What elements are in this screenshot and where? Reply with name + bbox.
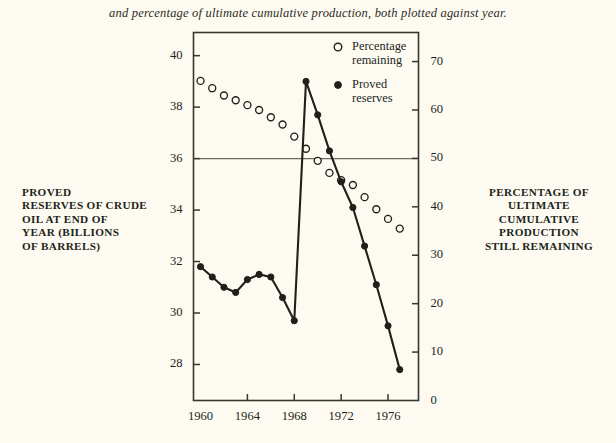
right-axis-title-line-0: PERCENTAGE OF [466, 186, 612, 199]
y-tick-label-32: 32 [136, 254, 183, 269]
datapoint-0-1961 [209, 85, 216, 92]
datapoint-1-1963 [233, 289, 239, 295]
datapoint-0-1974 [361, 194, 368, 201]
datapoint-1-1964 [244, 276, 250, 282]
y2-tick-label-60: 60 [431, 102, 471, 117]
right-axis-title: PERCENTAGE OFULTIMATECUMULATIVEPRODUCTIO… [466, 186, 612, 253]
y-tick-label-28: 28 [136, 356, 183, 371]
datapoint-1-1962 [221, 284, 227, 290]
datapoint-0-1962 [220, 92, 227, 99]
left-axis-title-line-3: YEAR (BILLIONS [22, 226, 172, 239]
datapoint-1-1966 [268, 274, 274, 280]
datapoint-1-1967 [279, 294, 285, 300]
datapoint-0-1968 [291, 133, 298, 140]
legend-marker-proved-reserves [335, 82, 342, 89]
legend-label-proved-reserves: Provedreserves [352, 77, 393, 105]
right-axis-title-line-3: PRODUCTION [466, 226, 612, 239]
y-tick-label-40: 40 [136, 48, 183, 63]
datapoint-1-1960 [197, 264, 203, 270]
y-tick-label-36: 36 [136, 151, 183, 166]
datapoint-1-1973 [350, 204, 356, 210]
datapoint-0-1970 [314, 157, 321, 164]
datapoint-0-1963 [232, 97, 239, 104]
y2-tick-label-30: 30 [431, 247, 471, 262]
x-tick-label-1976: 1976 [358, 409, 418, 424]
series-line-1 [201, 81, 400, 369]
datapoint-1-1970 [315, 112, 321, 118]
datapoint-0-1960 [197, 77, 204, 84]
datapoint-1-1961 [209, 274, 215, 280]
datapoint-0-1976 [385, 215, 392, 222]
datapoint-1-1974 [361, 243, 367, 249]
datapoint-1-1977 [397, 367, 403, 373]
datapoint-0-1965 [256, 106, 263, 113]
datapoint-0-1977 [396, 225, 403, 232]
datapoint-0-1973 [349, 182, 356, 189]
y2-tick-label-40: 40 [431, 199, 471, 214]
y2-tick-label-10: 10 [431, 344, 471, 359]
y-tick-label-38: 38 [136, 99, 183, 114]
datapoint-0-1975 [373, 206, 380, 213]
datapoint-1-1976 [385, 323, 391, 329]
legend-label-0-line-0: Percentage [352, 39, 406, 53]
legend-label-1-line-1: reserves [352, 91, 393, 105]
datapoint-1-1972 [338, 179, 344, 185]
legend-label-percentage-remaining: Percentageremaining [352, 39, 406, 67]
right-axis-title-line-1: ULTIMATE [466, 199, 612, 212]
right-axis-title-line-4: STILL REMAINING [466, 240, 612, 253]
datapoint-1-1968 [291, 318, 297, 324]
datapoint-0-1966 [267, 114, 274, 121]
y2-tick-label-0: 0 [431, 393, 471, 408]
legend-label-1-line-0: Proved [352, 77, 393, 91]
datapoint-1-1969 [303, 78, 309, 84]
left-axis-title: PROVEDRESERVES OF CRUDEOIL AT END OFYEAR… [22, 186, 172, 253]
y-tick-label-30: 30 [136, 305, 183, 320]
datapoint-0-1964 [244, 102, 251, 109]
left-axis-title-line-0: PROVED [22, 186, 172, 199]
y2-tick-label-70: 70 [431, 54, 471, 69]
y2-tick-label-50: 50 [431, 150, 471, 165]
datapoint-1-1975 [373, 282, 379, 288]
y-tick-label-34: 34 [136, 202, 183, 217]
legend-label-0-line-1: remaining [352, 53, 406, 67]
datapoint-1-1971 [326, 148, 332, 154]
datapoint-0-1971 [326, 169, 333, 176]
datapoint-1-1965 [256, 271, 262, 277]
left-axis-title-line-4: OF BARRELS) [22, 240, 172, 253]
y2-tick-label-20: 20 [431, 296, 471, 311]
right-axis-title-line-2: CUMULATIVE [466, 213, 612, 226]
legend-marker-percentage-remaining [334, 43, 342, 51]
datapoint-0-1967 [279, 121, 286, 128]
